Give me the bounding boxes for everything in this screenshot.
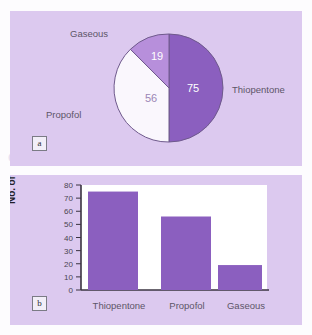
- bar-xlabel-thiopentone: Thiopentone: [79, 300, 159, 311]
- bar-xlabel-gaseous: Gaseous: [214, 300, 278, 311]
- bar-ytick-30: 30: [64, 247, 73, 256]
- pie-value-gaseous: 19: [151, 50, 163, 62]
- bar-ytick-40: 40: [64, 234, 73, 243]
- bar-thiopentone[interactable]: [88, 192, 138, 290]
- pie-label-propofol: Propofol: [46, 109, 81, 120]
- pie-value-thiopentone: 75: [187, 82, 199, 94]
- pie-label-gaseous: Gaseous: [70, 28, 108, 39]
- bar-ytick-50: 50: [64, 220, 73, 229]
- bar-gaseous[interactable]: [218, 265, 262, 290]
- panel-b-label: b: [32, 296, 47, 311]
- bar-ytick-60: 60: [64, 207, 73, 216]
- bar-chart-y-ticks: 0 10 20 30 40 50 60 70 80: [64, 181, 81, 295]
- pie-chart: 75 56 19: [113, 32, 225, 144]
- bar-xlabel-propofol: Propofol: [155, 300, 219, 311]
- bar-ytick-0: 0: [69, 286, 74, 295]
- bar-ytick-10: 10: [64, 273, 73, 282]
- pie-label-thiopentone: Thiopentone: [232, 84, 285, 95]
- pie-chart-svg: 75 56 19: [113, 32, 225, 144]
- bar-propofol[interactable]: [161, 217, 211, 291]
- bar-chart-y-axis-title: No. of patients: [10, 175, 17, 225]
- bar-ytick-70: 70: [64, 194, 73, 203]
- bar-ytick-20: 20: [64, 260, 73, 269]
- figure-root: Chapter 5 Standards CATIONS AND ANAESTHE…: [0, 0, 312, 335]
- pie-value-propofol: 56: [145, 92, 157, 104]
- bar-chart-svg: 0 10 20 30 40 50 60 70 80: [50, 180, 272, 315]
- panel-a-pie-chart: a 75 56 19 Gaseous Thiopentone Propofol: [10, 11, 302, 166]
- panel-a-label: a: [32, 136, 47, 151]
- bar-ytick-80: 80: [64, 181, 73, 190]
